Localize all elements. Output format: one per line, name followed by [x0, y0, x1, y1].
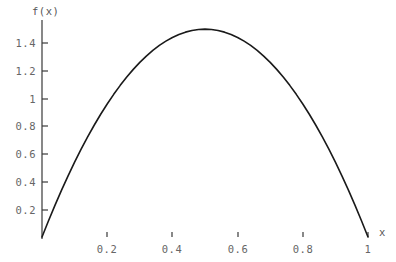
- ytick-label: 1.4: [2, 38, 36, 49]
- xtick-label: 0.6: [218, 244, 258, 255]
- ytick-label: 1: [2, 94, 36, 105]
- plot-figure: 1.4 1.2 1 0.8 0.6 0.4 0.2 0.2 0.4 0.6 0.…: [0, 0, 396, 262]
- plot-canvas: [0, 0, 396, 262]
- ytick-label: 1.2: [2, 66, 36, 77]
- ytick-label: 0.8: [2, 121, 36, 132]
- ytick-label: 0.2: [2, 205, 36, 216]
- ytick-label: 0.4: [2, 177, 36, 188]
- y-axis-ticks: [42, 43, 48, 210]
- ytick-label: 0.6: [2, 149, 36, 160]
- function-curve: [42, 29, 368, 237]
- xtick-label: 0.8: [283, 244, 323, 255]
- xtick-label: 0.4: [152, 244, 192, 255]
- x-axis-label: x: [379, 227, 386, 238]
- xtick-label: 1: [353, 244, 383, 255]
- y-axis-label: f(x): [32, 6, 59, 17]
- xtick-label: 0.2: [87, 244, 127, 255]
